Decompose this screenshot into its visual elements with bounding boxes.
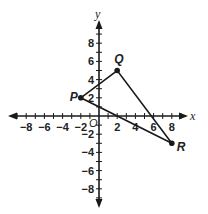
vertex-p-dot [78,95,84,101]
x-arrow-right-icon [179,113,188,120]
y-tick-label: −6 [81,165,94,177]
triangle-outline [81,71,172,144]
x-tick-label: 2 [114,121,120,133]
vertex-q-dot [114,68,120,74]
origin-label: O [89,117,98,129]
y-arrow-up-icon [96,20,103,29]
y-tick-label: −2 [81,128,94,140]
vertex-r-dot [169,141,175,147]
x-tick-label: −6 [38,121,51,133]
x-tick-label: −8 [20,121,33,133]
y-tick-label: 8 [88,37,94,49]
vertex-r-label: R [177,140,186,154]
y-arrow-down-icon [96,199,103,208]
vertex-q-label: Q [114,52,124,66]
y-axis-label: y [94,7,101,21]
x-axis-label: x [189,109,196,123]
y-tick-label: −8 [81,183,94,195]
x-tick-label: 8 [169,121,175,133]
coordinate-plane: −8−6−4−22468 8642−2−4−6−8 PQR x y O [0,0,208,214]
x-tick-label: −4 [56,121,69,133]
y-tick-label: −4 [81,146,94,158]
y-tick-label: 4 [88,74,95,86]
vertex-p-label: P [70,90,79,104]
y-tick-label: 6 [88,55,94,67]
x-arrow-left-icon [8,113,17,120]
